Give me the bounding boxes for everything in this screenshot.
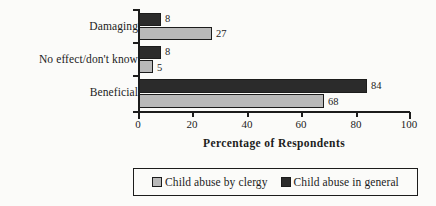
bar-no-effect-clergy (139, 60, 153, 73)
legend-label-clergy: Child abuse by clergy (165, 176, 268, 188)
x-axis-line (138, 111, 410, 113)
bar-value-damaging-clergy: 27 (216, 29, 227, 39)
legend-swatch-general-icon (281, 177, 291, 187)
category-label-no-effect: No effect/don't know (39, 53, 138, 65)
bar-damaging-clergy (139, 27, 212, 40)
chart-legend: Child abuse by clergy Child abuse in gen… (133, 168, 418, 196)
bar-value-no-effect-general: 8 (165, 47, 170, 57)
bar-beneficial-general (139, 79, 367, 93)
category-label-beneficial: Beneficial (90, 86, 138, 98)
y-axis-tick (133, 75, 138, 77)
bar-value-damaging-general: 8 (165, 14, 170, 24)
bar-value-beneficial-general: 84 (371, 81, 382, 91)
bar-value-beneficial-clergy: 68 (328, 97, 339, 107)
legend-item-clergy: Child abuse by clergy (152, 176, 268, 188)
legend-label-general: Child abuse in general (294, 176, 399, 188)
x-axis-tick (356, 112, 358, 117)
x-tick-label-20: 20 (177, 119, 207, 130)
x-axis-title: Percentage of Respondents (138, 137, 410, 149)
x-axis-tick (301, 112, 303, 117)
x-axis-tick (247, 112, 249, 117)
x-tick-label-0: 0 (123, 119, 153, 130)
legend-swatch-clergy-icon (152, 177, 162, 187)
y-axis-tick (133, 42, 138, 44)
x-tick-label-100: 100 (394, 119, 424, 130)
bar-chart-figure: Damaging No effect/don't know Beneficial… (0, 0, 436, 206)
category-label-damaging: Damaging (89, 20, 138, 32)
bar-beneficial-clergy (139, 94, 324, 108)
bar-damaging-general (139, 13, 161, 26)
x-tick-label-60: 60 (286, 119, 316, 130)
y-axis-tick (133, 9, 138, 11)
legend-item-general: Child abuse in general (281, 176, 399, 188)
x-tick-label-40: 40 (232, 119, 262, 130)
x-tick-label-80: 80 (341, 119, 371, 130)
x-axis-tick (192, 112, 194, 117)
bar-no-effect-general (139, 46, 161, 59)
plot-area: 8 27 8 5 84 68 0 20 40 60 80 100 (138, 11, 410, 110)
bar-value-no-effect-clergy: 5 (157, 63, 162, 73)
